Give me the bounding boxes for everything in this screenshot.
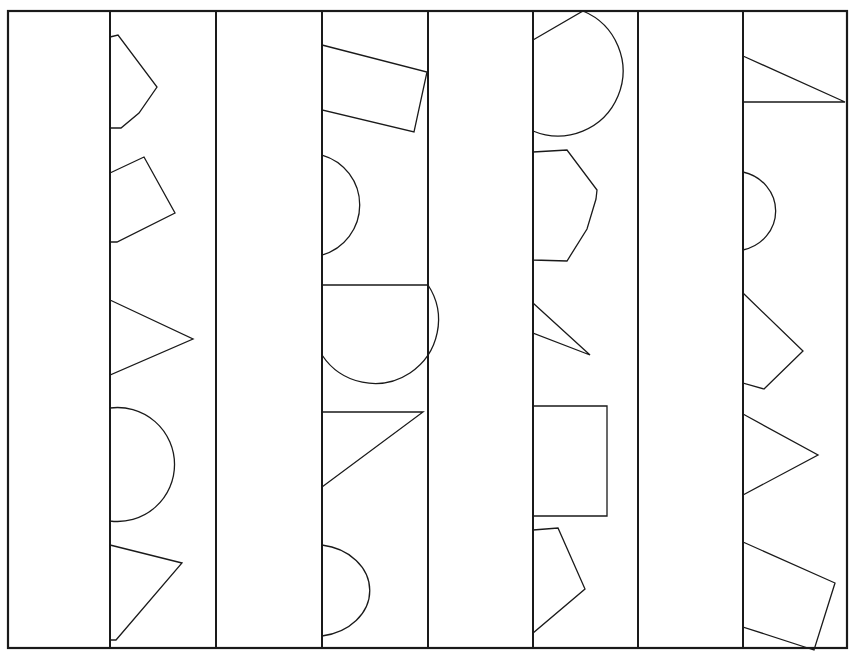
figure-canvas [0, 0, 855, 655]
shape-band-diagram [0, 0, 855, 655]
